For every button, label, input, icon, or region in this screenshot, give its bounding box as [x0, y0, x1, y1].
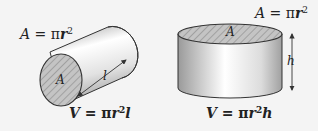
exponent: 2: [67, 26, 73, 36]
equals-sign: =: [217, 105, 238, 121]
length-label: l: [103, 70, 107, 82]
pi-symbol: π: [238, 105, 248, 121]
height-symbol: h: [262, 105, 272, 121]
volume-symbol: V: [206, 105, 217, 121]
height-label: h: [287, 55, 295, 67]
equals-sign: =: [80, 105, 101, 121]
pi-symbol: π: [101, 105, 111, 121]
exponent: 2: [302, 5, 308, 15]
left-cross-section-label: A: [56, 74, 65, 86]
equals-sign: =: [30, 26, 51, 42]
cylinder-volume-diagram: A = πr2 A l V = πr2l A = πr2 A h V = πr2…: [0, 0, 318, 131]
pi-symbol: π: [51, 26, 60, 42]
left-area-formula: A = πr2: [20, 27, 73, 41]
right-volume-formula: V = πr2h: [206, 106, 272, 120]
area-symbol: A: [255, 5, 265, 21]
volume-symbol: V: [69, 105, 80, 121]
radius-symbol: r: [249, 105, 256, 121]
vertical-cylinder-shape: [178, 24, 292, 98]
area-symbol: A: [20, 26, 30, 42]
pi-symbol: π: [286, 5, 295, 21]
right-area-formula: A = πr2: [255, 6, 308, 20]
left-volume-formula: V = πr2l: [69, 106, 131, 120]
equals-sign: =: [265, 5, 286, 21]
radius-symbol: r: [112, 105, 119, 121]
length-symbol: l: [125, 105, 130, 121]
right-cross-section-label: A: [226, 26, 235, 38]
